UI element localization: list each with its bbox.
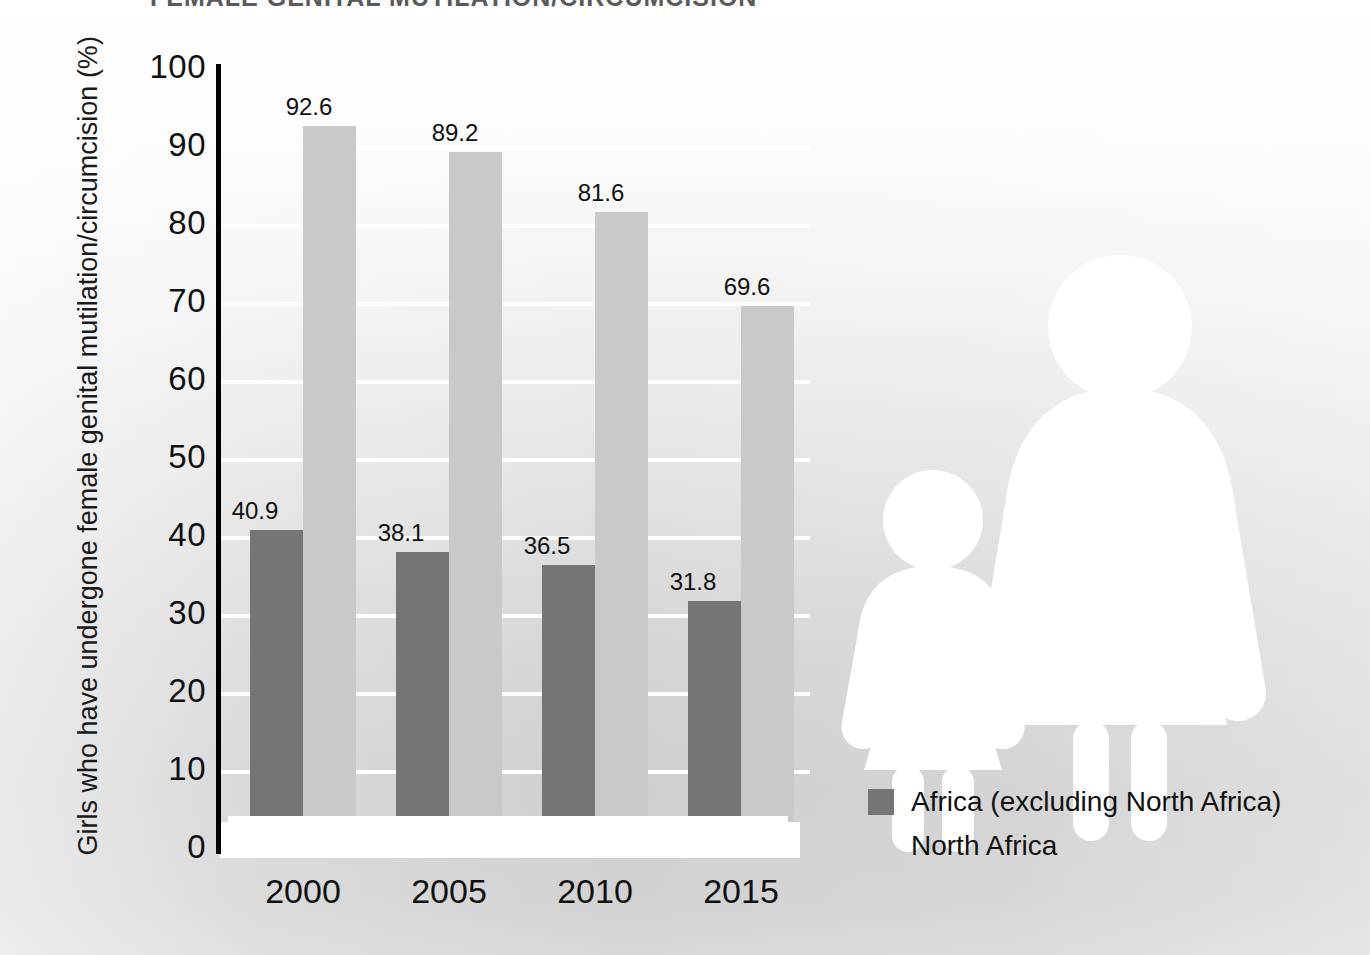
bar-value-north-africa-2015: 69.6 bbox=[707, 273, 787, 301]
y-tick-10: 10 bbox=[126, 750, 206, 788]
bar-value-north-africa-2005: 89.2 bbox=[415, 119, 495, 147]
y-tick-60: 60 bbox=[126, 360, 206, 398]
bar-value-africa-2015: 31.8 bbox=[653, 568, 733, 596]
chart-page: FEMALE GENITAL MUTILATION/CIRCUMCISION G… bbox=[0, 0, 1370, 955]
y-tick-0: 0 bbox=[126, 828, 206, 866]
x-tick-2010: 2010 bbox=[520, 872, 670, 911]
bar-north-africa-2000[interactable] bbox=[303, 126, 356, 850]
legend-swatch-north-africa bbox=[868, 833, 894, 859]
legend: Africa (excluding North Africa) North Af… bbox=[868, 780, 1281, 868]
y-tick-80: 80 bbox=[126, 204, 206, 242]
y-tick-90: 90 bbox=[126, 126, 206, 164]
bar-africa-2015[interactable] bbox=[688, 601, 741, 850]
y-tick-70: 70 bbox=[126, 282, 206, 320]
legend-item-africa[interactable]: Africa (excluding North Africa) bbox=[868, 780, 1281, 824]
bar-africa-2000[interactable] bbox=[250, 530, 303, 850]
bar-africa-2010[interactable] bbox=[542, 565, 595, 850]
y-tick-20: 20 bbox=[126, 672, 206, 710]
y-axis-title: Girls who have undergone female genital … bbox=[73, 56, 104, 856]
x-tick-2000: 2000 bbox=[228, 872, 378, 911]
bar-north-africa-2015[interactable] bbox=[741, 306, 794, 850]
bar-value-africa-2000: 40.9 bbox=[215, 497, 295, 525]
y-tick-30: 30 bbox=[126, 594, 206, 632]
y-tick-100: 100 bbox=[126, 48, 206, 86]
bar-value-africa-2010: 36.5 bbox=[507, 532, 587, 560]
plot-area bbox=[220, 68, 810, 850]
bar-north-africa-2010[interactable] bbox=[595, 212, 648, 850]
bar-value-north-africa-2000: 92.6 bbox=[269, 93, 349, 121]
legend-label-africa: Africa (excluding North Africa) bbox=[911, 786, 1281, 818]
bar-africa-2005[interactable] bbox=[396, 552, 449, 850]
poster-title: FEMALE GENITAL MUTILATION/CIRCUMCISION bbox=[150, 0, 1150, 9]
bar-north-africa-2005[interactable] bbox=[449, 152, 502, 850]
baseline-band bbox=[220, 822, 800, 858]
y-axis-line bbox=[216, 64, 221, 854]
y-tick-40: 40 bbox=[126, 516, 206, 554]
legend-swatch-africa bbox=[868, 789, 894, 815]
bar-value-africa-2005: 38.1 bbox=[361, 519, 441, 547]
x-tick-2015: 2015 bbox=[666, 872, 816, 911]
legend-item-north-africa[interactable]: North Africa bbox=[868, 824, 1281, 868]
y-tick-50: 50 bbox=[126, 438, 206, 476]
bar-value-north-africa-2010: 81.6 bbox=[561, 179, 641, 207]
x-tick-2005: 2005 bbox=[374, 872, 524, 911]
legend-label-north-africa: North Africa bbox=[911, 830, 1057, 862]
